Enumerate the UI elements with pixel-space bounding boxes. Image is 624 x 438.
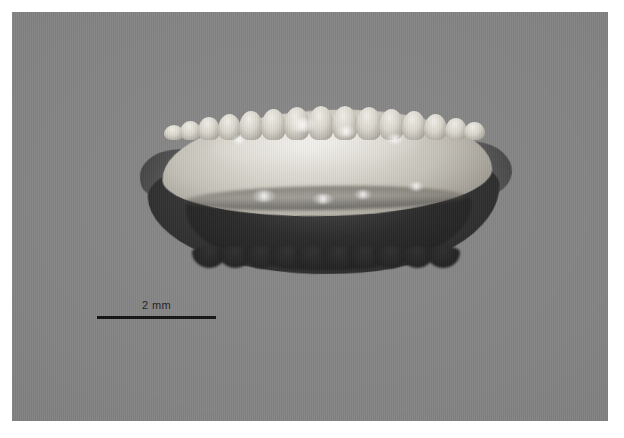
photograph-plate: 2 mm [12, 12, 608, 421]
specular-highlight [386, 134, 404, 144]
specimen-image [140, 90, 508, 280]
dorsal-crenulation-bump [356, 107, 382, 140]
dorsal-crenulation-bump [198, 117, 220, 140]
scale-bar-line [97, 316, 216, 319]
ventral-crenulation-bump [426, 246, 460, 268]
figure-root: 2 mm [0, 0, 624, 438]
specular-highlight [336, 126, 356, 137]
specular-highlight [312, 194, 334, 204]
specular-highlight [232, 136, 246, 144]
dorsal-crenulation-bump [402, 111, 426, 140]
dorsal-crenulation-bump [464, 122, 485, 140]
specimen-ventral-crenulations [192, 240, 472, 274]
scale-bar-label: 2 mm [97, 298, 216, 312]
specular-highlight [408, 182, 424, 191]
dorsal-crenulation-bump [424, 114, 447, 140]
specular-highlight [290, 118, 316, 132]
specimen-dorsal-crenulations [164, 98, 486, 140]
dorsal-crenulation-bump [261, 109, 286, 140]
specular-highlight [354, 190, 372, 199]
scale-bar: 2 mm [97, 298, 229, 319]
specular-highlight [252, 190, 276, 202]
